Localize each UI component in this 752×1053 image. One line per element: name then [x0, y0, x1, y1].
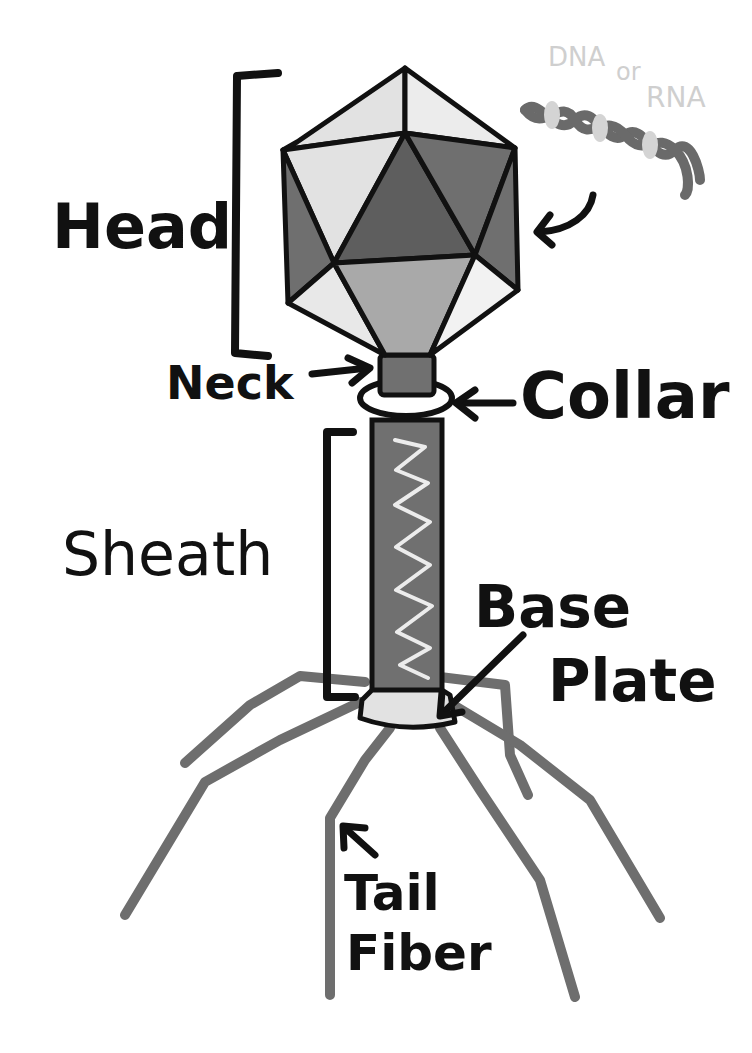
label-sheath: Sheath	[62, 524, 273, 584]
label-tail-fiber-line2: Fiber	[346, 928, 492, 978]
head-bracket	[235, 73, 278, 356]
label-neck: Neck	[166, 360, 294, 406]
dna-arrow-icon	[537, 195, 593, 245]
label-base-plate-line2: Plate	[548, 652, 717, 710]
label-rna: RNA	[646, 84, 706, 112]
tail-fiber-left-upper	[185, 676, 365, 763]
tail-fiber-right-lower	[445, 700, 660, 918]
collar-arrow-icon	[456, 390, 513, 418]
label-collar: Collar	[520, 364, 730, 428]
neck	[380, 355, 434, 395]
tail-fiber-arrow-icon	[343, 826, 375, 855]
neck-arrow-icon	[312, 358, 370, 383]
tail-fiber-right-upper	[440, 677, 528, 795]
label-or: or	[616, 60, 641, 84]
nucleic-acid-helix	[525, 101, 700, 195]
label-dna: DNA	[548, 44, 605, 70]
tail-fiber-left-lower	[125, 702, 360, 915]
label-base-plate-line1: Base	[474, 578, 631, 636]
label-head: Head	[52, 196, 232, 258]
label-tail-fiber-line1: Tail	[344, 868, 440, 918]
capsid-head	[283, 68, 518, 355]
sheath-bracket	[327, 432, 355, 697]
